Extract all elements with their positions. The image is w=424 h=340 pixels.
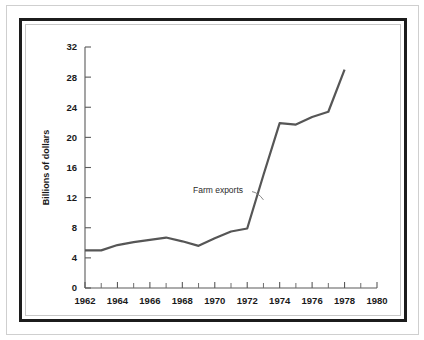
x-tick-label: 1962 — [74, 295, 95, 306]
y-tick-label: 12 — [66, 192, 77, 203]
y-tick-label: 20 — [66, 132, 77, 143]
x-tick-label: 1978 — [334, 295, 355, 306]
y-tick-label: 4 — [72, 252, 78, 263]
y-tick-label: 0 — [72, 282, 77, 293]
x-tick-label: 1976 — [302, 295, 323, 306]
x-tick-label: 1966 — [139, 295, 160, 306]
x-tick-label: 1964 — [107, 295, 129, 306]
y-tick-label: 32 — [66, 41, 77, 52]
x-tick-label: 1974 — [269, 295, 291, 306]
chart-plot-area: 0481216202428321962196419661968197019721… — [25, 24, 401, 316]
x-tick-label: 1968 — [172, 295, 193, 306]
x-tick-label: 1980 — [366, 295, 387, 306]
annotation-label: Farm exports — [193, 185, 243, 195]
x-tick-label: 1970 — [204, 295, 225, 306]
x-tick-label: 1972 — [237, 295, 258, 306]
line-chart: 0481216202428321962196419661968197019721… — [25, 24, 401, 316]
y-axis-label: Billions of dollars — [41, 130, 51, 206]
y-tick-label: 28 — [66, 72, 77, 83]
figure-page: 0481216202428321962196419661968197019721… — [0, 0, 424, 340]
y-tick-label: 24 — [66, 102, 77, 113]
data-series-line — [85, 70, 345, 251]
y-tick-label: 16 — [66, 162, 77, 173]
y-tick-label: 8 — [72, 222, 77, 233]
